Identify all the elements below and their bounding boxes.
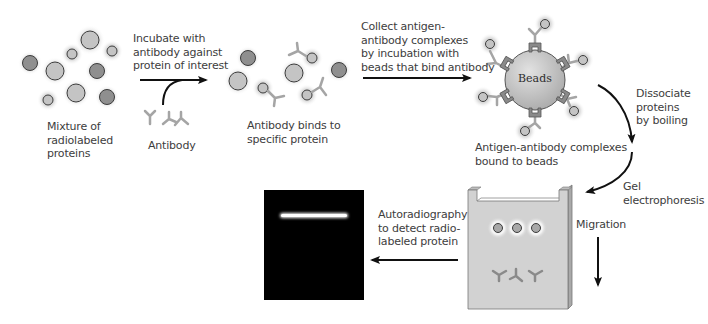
collect-label-line: beads that bind antibody: [361, 61, 495, 75]
dissociate-label-line: by boiling: [636, 114, 691, 128]
mixture-label-line: Mixture of: [47, 120, 113, 134]
dissociate-label-line: Dissociate: [636, 87, 691, 101]
dissociate-label: Dissociate proteins by boiling: [636, 87, 691, 128]
mixture-label: Mixture of radiolabeled proteins: [47, 120, 113, 161]
gel-slab: [468, 185, 572, 309]
incubate-arrow: [140, 80, 206, 105]
incubate-label: Incubate with antibody against protein o…: [133, 32, 228, 73]
migration-label-line: Migration: [576, 218, 626, 232]
gel-electrophoresis-label: Gel electrophoresis: [623, 180, 704, 207]
antibody-label: Antibody: [148, 139, 195, 153]
mixture-label-line: proteins: [47, 147, 113, 161]
dissociate-label-line: proteins: [636, 101, 691, 115]
antibody-binds-label: Antibody binds to specific protein: [247, 119, 340, 146]
collect-label-line: Collect antigen-: [361, 20, 495, 34]
bound-complexes-label: Antigen-antibody complexes bound to bead…: [475, 141, 627, 168]
autorad-label-line: labeled protein: [378, 235, 467, 249]
autorad-label-line: to detect radio-: [378, 222, 467, 236]
collect-label-line: by incubation with: [361, 47, 495, 61]
binds-label-line: specific protein: [247, 133, 340, 147]
free-antibodies: [145, 111, 188, 125]
gel-label-line: Gel: [623, 180, 704, 194]
bound-label-line: Antigen-antibody complexes: [475, 141, 627, 155]
autorad-label-line: Autoradiography: [378, 208, 467, 222]
antibody-label-line: Antibody: [148, 139, 195, 153]
bound-label-line: bound to beads: [475, 155, 627, 169]
gel-label-line: electrophoresis: [623, 194, 704, 208]
incubate-label-line: protein of interest: [133, 59, 228, 73]
collect-label: Collect antigen- antibody complexes by i…: [361, 20, 495, 74]
antibody-binding: [224, 43, 351, 106]
incubate-label-line: antibody against: [133, 46, 228, 60]
migration-label: Migration: [576, 218, 626, 232]
autoradiograph-film: [264, 190, 364, 300]
binds-label-line: Antibody binds to: [247, 119, 340, 133]
autoradiography-label: Autoradiography to detect radio- labeled…: [378, 208, 467, 249]
incubate-label-line: Incubate with: [133, 32, 228, 46]
collect-label-line: antibody complexes: [361, 34, 495, 48]
mixture-label-line: radiolabeled: [47, 134, 113, 148]
protein-mixture: [18, 25, 123, 111]
beads-label: Beads: [518, 72, 552, 85]
dissociate-arrow: [598, 85, 632, 142]
